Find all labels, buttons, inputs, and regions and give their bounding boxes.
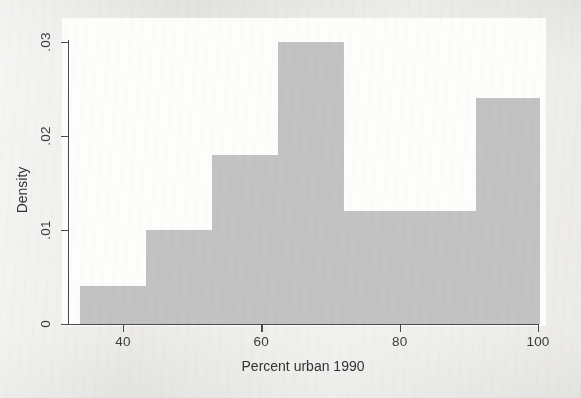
x-tick-mark bbox=[261, 325, 262, 332]
histogram-bar bbox=[476, 98, 540, 324]
histogram-bar bbox=[212, 155, 278, 324]
histogram-chart: 406080100 0.01.02.03 Percent urban 1990 … bbox=[0, 0, 581, 398]
histogram-bar bbox=[146, 230, 212, 324]
x-tick-label: 100 bbox=[526, 334, 549, 349]
y-tick-mark bbox=[61, 324, 68, 325]
x-tick-label: 60 bbox=[254, 334, 269, 349]
histogram-bar bbox=[80, 286, 146, 324]
histogram-bar bbox=[410, 211, 476, 324]
y-tick-label: .01 bbox=[38, 219, 53, 241]
y-axis-line bbox=[68, 40, 69, 325]
y-tick-mark bbox=[61, 136, 68, 137]
x-tick-mark bbox=[538, 325, 539, 332]
histogram-bar bbox=[344, 211, 410, 324]
y-tick-mark bbox=[61, 230, 68, 231]
x-tick-mark bbox=[123, 325, 124, 332]
y-axis-title: Density bbox=[14, 160, 30, 220]
y-tick-label: 0 bbox=[38, 313, 53, 335]
x-axis-line bbox=[68, 324, 539, 325]
x-axis-title: Percent urban 1990 bbox=[242, 358, 365, 374]
x-tick-label: 80 bbox=[392, 334, 407, 349]
histogram-bar bbox=[278, 42, 344, 324]
x-tick-mark bbox=[400, 325, 401, 332]
x-tick-label: 40 bbox=[115, 334, 130, 349]
y-tick-label: .02 bbox=[38, 125, 53, 147]
y-tick-label: .03 bbox=[38, 31, 53, 53]
histogram-bars bbox=[0, 0, 581, 398]
y-tick-mark bbox=[61, 42, 68, 43]
